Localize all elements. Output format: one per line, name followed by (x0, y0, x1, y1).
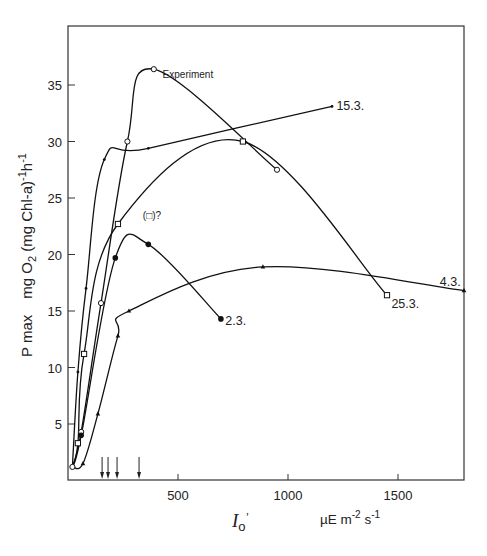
open-circle-marker (125, 139, 130, 144)
filled-circle-marker (78, 433, 84, 439)
origin-marker (70, 464, 75, 469)
y-tick-label: 15 (48, 304, 62, 319)
data-curves (72, 69, 464, 469)
open-circle-marker (98, 300, 103, 305)
x-tick-label: 1000 (274, 488, 303, 503)
series-label: 4.3. (440, 275, 461, 289)
asterisk-marker (77, 371, 80, 374)
asterisk-marker (147, 147, 150, 150)
series-label: (□)? (143, 210, 162, 221)
y-axis-prefix: P max (18, 314, 35, 357)
filled-circle-marker (218, 316, 224, 322)
series-curve-153 (72, 106, 332, 466)
y-tick-label: 35 (48, 78, 62, 93)
filled-circle-marker (113, 255, 119, 261)
asterisk-marker (331, 105, 334, 108)
y-tick-label: 10 (48, 361, 62, 376)
open-square-marker (384, 293, 389, 298)
plot-frame (68, 26, 464, 480)
y-tick-label: 20 (48, 248, 62, 263)
filled-triangle-marker (96, 411, 101, 415)
arrow-head-icon (100, 472, 104, 479)
x-axis-arrows (100, 457, 141, 479)
x-axis-unit: µE m-2 s-1 (320, 509, 381, 527)
x-tick-label: 500 (167, 488, 189, 503)
series-label: 25.3. (391, 297, 419, 311)
open-square-marker (115, 221, 120, 226)
open-circle-marker (151, 67, 156, 72)
arrow-head-icon (137, 472, 141, 479)
series-label: 15.3. (336, 99, 364, 113)
open-square-marker (240, 139, 245, 144)
series-curve-253 (72, 140, 387, 467)
axis-ticks: 500100015005101520253035 (48, 78, 413, 503)
arrow-head-icon (106, 472, 110, 479)
data-markers (70, 67, 467, 470)
series-curve-23 (72, 234, 221, 467)
arrow-head-icon (115, 472, 119, 479)
asterisk-marker (103, 158, 106, 161)
open-square-marker (81, 351, 86, 356)
filled-circle-marker (146, 242, 152, 248)
y-tick-label: 30 (48, 135, 62, 150)
filled-triangle-marker (81, 461, 86, 465)
asterisk-marker (85, 287, 88, 290)
series-label: 2.3. (225, 314, 246, 328)
x-axis-symbol: Io' (231, 510, 249, 534)
open-square-marker (75, 441, 80, 446)
filled-triangle-marker (116, 333, 121, 337)
pmax-light-chart: 500100015005101520253035 Experiment(□)?1… (0, 0, 487, 556)
y-axis-title: P maxmg O2 (mg Chl-a)-1h-1 (16, 153, 38, 357)
open-circle-marker (274, 167, 279, 172)
x-tick-label: 1500 (384, 488, 413, 503)
series-label: Experiment (163, 69, 214, 80)
y-tick-label: 5 (55, 417, 62, 432)
y-tick-label: 25 (48, 191, 62, 206)
series-labels: Experiment(□)?15.3.25.3.2.3.4.3. (143, 69, 461, 328)
